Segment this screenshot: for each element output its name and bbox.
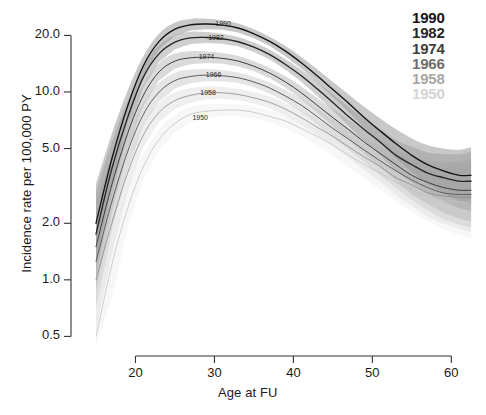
- x-tick-label: 60: [436, 365, 466, 380]
- incidence-rate-chart: Incidence rate per 100,000 PY Age at FU …: [0, 0, 486, 415]
- legend-item-1958[interactable]: 1958: [412, 71, 445, 86]
- x-tick-label: 50: [357, 365, 387, 380]
- y-tick-label: 5.0: [18, 140, 60, 155]
- legend-item-1982[interactable]: 1982: [412, 25, 445, 40]
- y-tick-label: 10.0: [18, 83, 60, 98]
- curve-label-1982: 1982: [208, 34, 224, 41]
- x-axis-title: Age at FU: [218, 385, 277, 400]
- legend-item-1990[interactable]: 1990: [412, 10, 445, 25]
- curve-label-1990: 1990: [215, 20, 231, 27]
- curve-label-1974: 1974: [199, 53, 215, 60]
- legend-item-1974[interactable]: 1974: [412, 41, 445, 56]
- curve-label-1950: 1950: [192, 114, 208, 121]
- y-tick-label: 0.5: [18, 327, 60, 342]
- legend: 199019821974196619581950: [412, 10, 445, 102]
- legend-item-1966[interactable]: 1966: [412, 56, 445, 71]
- x-tick-label: 20: [120, 365, 150, 380]
- x-tick-label: 40: [278, 365, 308, 380]
- legend-item-1950[interactable]: 1950: [412, 86, 445, 101]
- plot-left-mask: [0, 0, 78, 415]
- y-tick-label: 1.0: [18, 271, 60, 286]
- x-tick-label: 30: [199, 365, 229, 380]
- curve-label-1966: 1966: [206, 71, 222, 78]
- y-tick-label: 2.0: [18, 214, 60, 229]
- y-tick-label: 20.0: [18, 26, 60, 41]
- curve-label-1958: 1958: [200, 89, 216, 96]
